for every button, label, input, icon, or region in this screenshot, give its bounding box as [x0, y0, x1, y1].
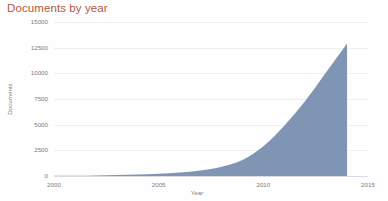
y-tick-label: 12500: [0, 44, 48, 51]
chart-title: Documents by year: [7, 2, 108, 14]
documents-by-year-chart: Documents by year Documents Year 0250050…: [0, 0, 388, 201]
x-tick-label: 2010: [256, 181, 270, 188]
y-tick-label: 10000: [0, 69, 48, 76]
area-fill-path: [54, 44, 347, 176]
x-tick-label: 2005: [152, 181, 166, 188]
plot-area: [54, 22, 368, 176]
y-tick-label: 0: [0, 172, 48, 179]
y-tick-label: 7500: [0, 95, 48, 102]
x-tick-label: 2015: [361, 181, 375, 188]
y-tick-label: 15000: [0, 18, 48, 25]
x-axis-title: Year: [191, 189, 204, 196]
gridline: [54, 176, 368, 177]
area-series-documents: [54, 22, 368, 176]
x-tick-label: 2000: [47, 181, 61, 188]
y-tick-label: 5000: [0, 121, 48, 128]
y-tick-label: 2500: [0, 146, 48, 153]
